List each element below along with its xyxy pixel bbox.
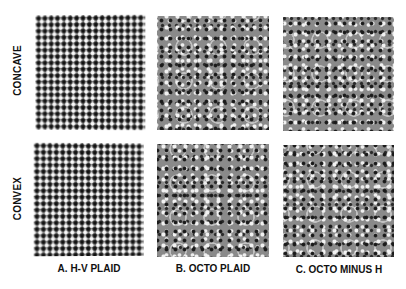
row-label-concave: CONCAVE bbox=[12, 41, 23, 101]
col-label-b: B. OCTO PLAID bbox=[148, 263, 278, 274]
panel-convex-octo-minus-h bbox=[283, 145, 394, 257]
panel-convex-hv-plaid bbox=[34, 143, 144, 257]
panel-convex-octo-plaid bbox=[157, 144, 269, 257]
panel-concave-octo-plaid bbox=[157, 16, 269, 130]
panel-concave-hv-plaid bbox=[35, 15, 145, 131]
panel-concave-octo-minus-h bbox=[283, 17, 394, 131]
col-label-a: A. H-V PLAID bbox=[24, 263, 154, 274]
col-label-c: C. OCTO MINUS H bbox=[274, 264, 404, 275]
row-label-convex: CONVEX bbox=[12, 169, 23, 229]
